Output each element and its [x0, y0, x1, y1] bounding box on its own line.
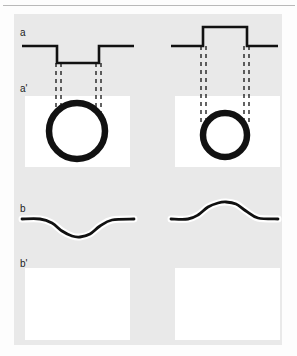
row-label-b-prime: b'	[20, 259, 27, 269]
figure-root: a a' b b'	[0, 0, 297, 356]
plot-box-bprime-left	[25, 268, 130, 340]
plot-box-aprime-left	[25, 96, 130, 167]
row-label-b: b	[20, 204, 26, 214]
plot-box-aprime-right	[175, 96, 280, 167]
top-divider-rule	[3, 5, 295, 6]
row-label-a-prime: a'	[20, 84, 27, 94]
row-label-a: a	[20, 28, 26, 38]
plot-box-bprime-right	[175, 268, 280, 340]
